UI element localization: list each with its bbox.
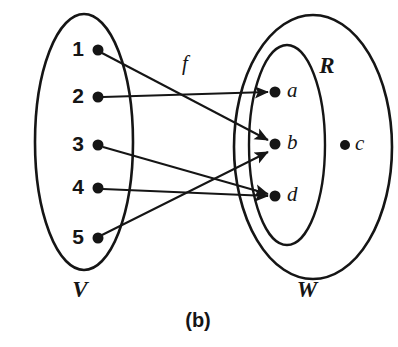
domain-dots-group [93,45,104,244]
node-label-b: b [287,130,298,154]
node-dot-5 [93,233,104,244]
codomain-dots-group [270,87,351,202]
node-dot-a [270,87,281,98]
node-dot-3 [93,140,104,151]
set-label-r: R [318,53,334,78]
set-label-w: W [297,277,319,302]
diagram-canvas: 1 2 3 4 5 a b d c V W R f (b) [0,0,398,347]
mapping-arrow-3-to-d [103,147,268,194]
node-label-1: 1 [72,37,84,60]
node-label-3: 3 [72,132,84,155]
set-label-v: V [72,277,89,302]
node-dot-4 [93,183,104,194]
mapping-arrow-5-to-b [102,152,268,235]
codomain-set-ellipse-w [234,15,392,279]
node-label-5: 5 [72,225,84,248]
node-label-c: c [355,131,365,155]
node-label-d: d [287,182,298,206]
domain-labels-group: 1 2 3 4 5 [72,37,84,248]
figure-caption: (b) [185,309,211,331]
node-dot-2 [93,92,104,103]
domain-set-ellipse-v [35,14,133,270]
node-dot-c [340,140,350,150]
node-label-a: a [287,78,298,102]
node-dot-1 [93,45,104,56]
node-label-4: 4 [72,175,84,198]
node-label-2: 2 [72,84,84,107]
set-mapping-diagram: 1 2 3 4 5 a b d c V W R f (b) [0,0,398,347]
node-dot-b [270,139,281,150]
function-label-f: f [182,51,191,75]
node-dot-d [270,191,281,202]
